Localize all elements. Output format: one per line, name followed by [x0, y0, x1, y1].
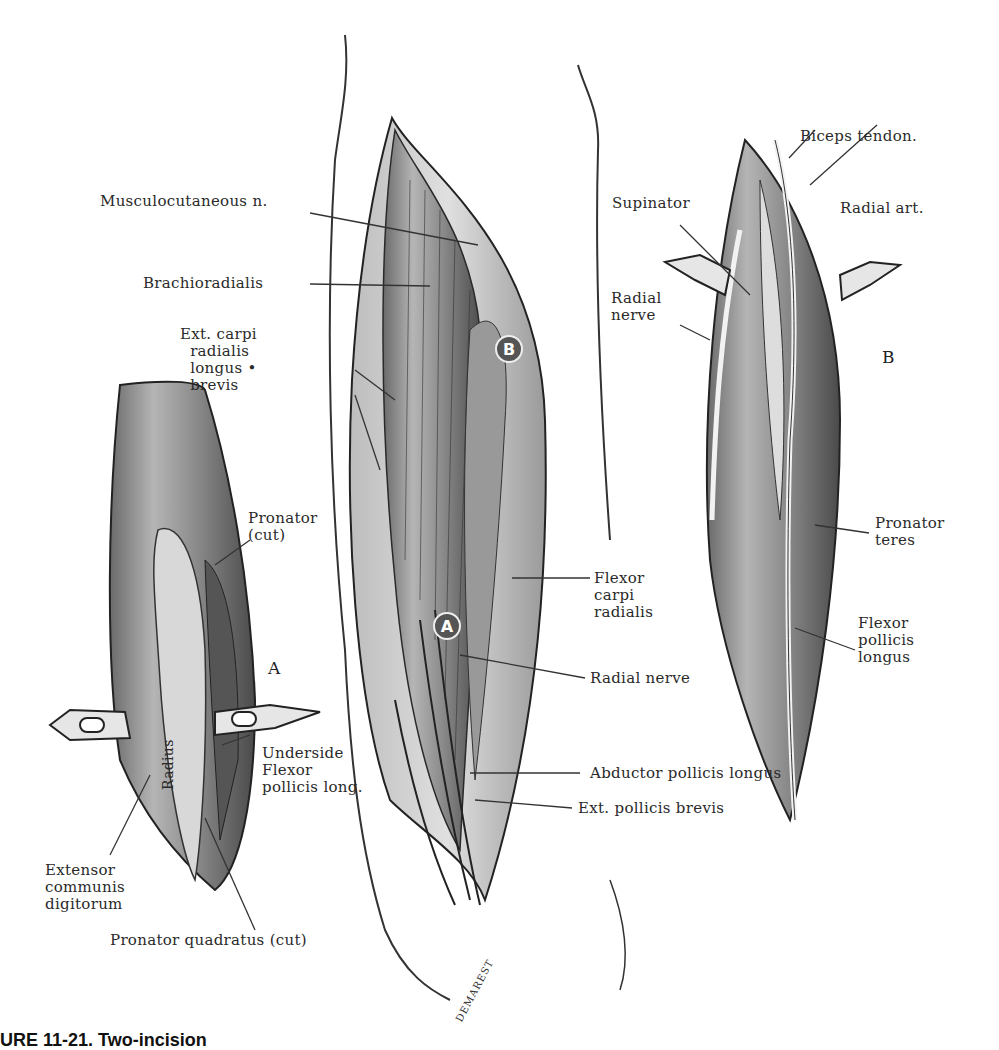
label-flexor-carpi-radialis: Flexor carpi radialis: [594, 570, 653, 621]
label-supinator: Supinator: [612, 195, 690, 212]
label-radial-art: Radial art.: [840, 200, 924, 217]
left-dissection: [50, 382, 320, 890]
marker-b: B: [495, 335, 523, 363]
label-radial-nerve-center: Radial nerve: [590, 670, 690, 687]
label-brachioradialis: Brachioradialis: [143, 275, 263, 292]
label-pronator-quadratus-cut: Pronator quadratus (cut): [110, 932, 307, 949]
label-ext-pollicis-brevis: Ext. pollicis brevis: [578, 800, 724, 817]
label-underside-flexor-pollicis-long: Underside Flexor pollicis long.: [262, 745, 363, 796]
marker-a: A: [433, 612, 461, 640]
label-pronator-cut: Pronator (cut): [248, 510, 318, 544]
label-biceps-tendon: Biceps tendon.: [800, 128, 917, 145]
label-pronator-teres: Pronator teres: [875, 515, 945, 549]
panel-letter-b: B: [882, 347, 895, 367]
label-extensor-communis-digitorum: Extensor communis digitorum: [45, 862, 125, 913]
label-musculocutaneous-n: Musculocutaneous n.: [100, 193, 267, 210]
label-ext-carpi-radialis: Ext. carpi radialis longus • brevis: [180, 326, 257, 394]
figure-caption: URE 11-21. Two-incision: [0, 1030, 207, 1050]
center-dissection: [350, 118, 546, 905]
label-radial-nerve-right: Radial nerve: [611, 290, 662, 324]
panel-letter-a: A: [268, 658, 280, 678]
right-dissection: [665, 140, 900, 820]
label-flexor-pollicis-longus: Flexor pollicis longus: [858, 615, 914, 666]
label-abductor-pollicis-longus: Abductor pollicis longus: [590, 765, 781, 782]
label-radius: Radius: [160, 739, 177, 790]
